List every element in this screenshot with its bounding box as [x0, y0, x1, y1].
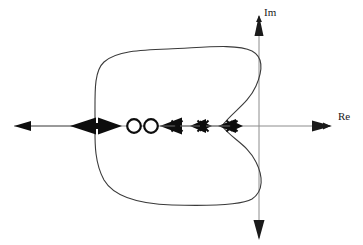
- arrow-breakaway-left: [70, 118, 96, 135]
- imaginary-axis-label: Im: [264, 7, 276, 18]
- imaginary-axis-down-arrowhead: [254, 220, 265, 240]
- zero-1-marker: [127, 119, 141, 133]
- imaginary-axis-up-arrowhead: [255, 15, 264, 36]
- complex-plane-plot: [0, 0, 363, 245]
- arrow-far-left: [14, 121, 31, 131]
- zero-2-marker: [144, 119, 158, 133]
- arrow-breakaway-right: [98, 118, 122, 135]
- real-axis-label: Re: [338, 111, 350, 122]
- real-axis-right-arrowhead: [312, 121, 332, 132]
- root-locus-figure: Im Re: [0, 0, 363, 245]
